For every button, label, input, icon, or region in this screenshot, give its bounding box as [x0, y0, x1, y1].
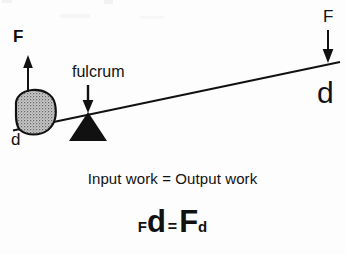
equation-left-distance: d	[147, 204, 166, 239]
work-equality-statement: Input work = Output work	[0, 170, 345, 187]
work-equation: Fd=Fd	[0, 206, 345, 237]
lever-beam	[13, 62, 340, 131]
equation-right-distance: d	[198, 218, 207, 235]
fulcrum-label: fulcrum	[72, 64, 124, 80]
rock-load-icon	[16, 90, 56, 135]
distance-label-right: d	[317, 78, 334, 108]
fulcrum-pointer-arrow-icon	[83, 85, 94, 113]
lever-diagram-page: F d fulcrum F d Input work = Output work…	[0, 0, 345, 254]
distance-label-left: d	[11, 131, 20, 148]
force-label-right: F	[323, 8, 333, 25]
equation-right-force: F	[179, 204, 198, 239]
fulcrum-triangle	[69, 112, 107, 141]
equation-left-force: F	[138, 218, 147, 235]
force-label-left: F	[13, 28, 23, 45]
force-arrow-down-right-icon	[323, 30, 334, 63]
equation-equals-sign: =	[166, 218, 179, 235]
force-arrow-up-left-icon	[23, 55, 33, 92]
